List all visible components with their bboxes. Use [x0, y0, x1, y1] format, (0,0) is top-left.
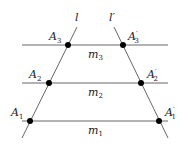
- point-A3p: [120, 42, 126, 48]
- label-point-A1: A1: [10, 106, 23, 121]
- point-A1p: [156, 118, 162, 124]
- point-A3: [65, 42, 71, 48]
- label-m2: m2: [88, 86, 103, 100]
- label-line-l: l: [75, 11, 79, 24]
- point-A2: [46, 80, 52, 86]
- label-point-A3: A3: [48, 30, 61, 45]
- label-point-A1p: A′1: [164, 106, 176, 121]
- point-A1: [27, 118, 33, 124]
- label-line-lp: l′: [109, 11, 116, 24]
- label-point-A2p: A′2: [146, 68, 158, 83]
- label-m1: m1: [88, 124, 103, 138]
- label-point-A2: A2: [28, 68, 41, 83]
- label-m3: m3: [88, 48, 103, 62]
- parallel-lines-diagram: m3m2m1ll′A3A′3A2A′2A1A′1: [0, 0, 189, 149]
- label-point-A3p: A′3: [127, 30, 139, 45]
- point-A2p: [138, 80, 144, 86]
